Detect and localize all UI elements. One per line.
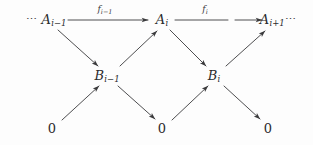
node-a-prev: ⋯ Ai−1 [26, 13, 67, 28]
arrow-b-curr-to-a-next [226, 31, 265, 66]
arrow-zero-middle-to-b-curr [172, 86, 208, 120]
node-zero-middle-label: 0 [158, 121, 166, 136]
arrow-zero-left-to-b-prev [62, 86, 99, 120]
leading-ellipsis: ⋯ [26, 13, 38, 26]
node-a-curr-label: A [156, 12, 166, 27]
node-b-curr-label: B [208, 68, 218, 83]
node-b-curr: Bi [208, 69, 221, 84]
arrow-a-prev-to-b-prev [58, 30, 98, 66]
node-zero-left-label: 0 [48, 121, 56, 136]
arrow-b-prev-to-zero-middle [118, 86, 155, 119]
arrow-label-f-curr-subscript: i [206, 8, 208, 16]
node-b-prev-subscript: i−1 [104, 74, 120, 84]
node-zero-right: 0 [264, 122, 272, 135]
node-zero-right-label: 0 [264, 121, 272, 136]
node-zero-left: 0 [48, 122, 56, 135]
node-a-prev-label: A [41, 12, 51, 27]
node-a-prev-subscript: i−1 [51, 18, 67, 28]
node-zero-middle: 0 [158, 122, 166, 135]
arrow-label-f-prev: fi−1 [97, 5, 112, 15]
node-b-curr-subscript: i [217, 74, 220, 84]
arrow-label-f-prev-subscript: i−1 [101, 8, 113, 16]
arrow-a-curr-to-b-curr [170, 30, 206, 66]
node-a-next-label: A [260, 12, 270, 27]
arrow-b-curr-to-zero-right [224, 86, 260, 119]
arrow-label-f-curr: fi [202, 5, 207, 15]
node-b-prev: Bi−1 [94, 69, 119, 84]
node-a-curr: Ai [156, 13, 169, 28]
node-a-next: Ai+1⋯ [260, 13, 297, 28]
trailing-ellipsis: ⋯ [285, 13, 297, 26]
node-a-next-subscript: i+1 [269, 18, 285, 28]
arrow-b-prev-to-a-curr [120, 31, 157, 66]
commutative-diagram: ⋯ Ai−1 Ai Ai+1⋯ Bi−1 Bi 0 0 0 fi−1 fi [0, 0, 313, 145]
node-a-curr-subscript: i [165, 18, 168, 28]
node-b-prev-label: B [94, 68, 104, 83]
